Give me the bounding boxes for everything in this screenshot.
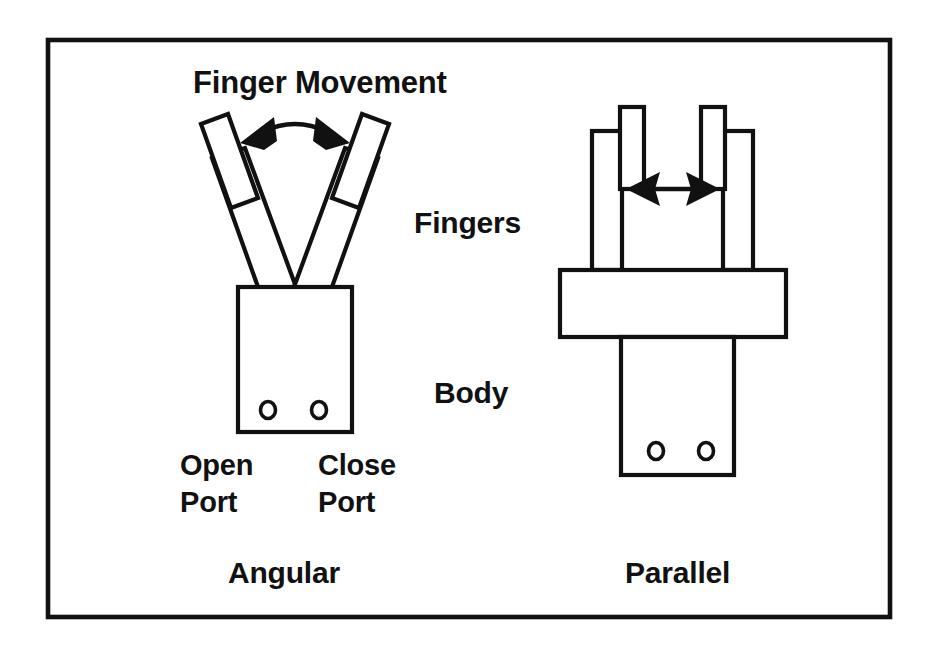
curved-arrow-head-left: [240, 117, 277, 150]
diagram-canvas: Finger Movement Fingers Body Open Port C…: [0, 0, 930, 646]
angular-close-port-hole: [312, 402, 327, 419]
parallel-left-finger-arm: [592, 131, 622, 270]
angular-gripper-illustration: [201, 114, 389, 432]
angular-caption: Angular: [228, 556, 340, 589]
curved-double-arrow-icon: [240, 117, 350, 150]
curved-arrow-head-right: [313, 117, 350, 150]
body-label: Body: [434, 376, 509, 409]
gripper-diagram-figure: Finger Movement Fingers Body Open Port C…: [0, 0, 930, 646]
parallel-caption: Parallel: [625, 556, 730, 589]
open-port-label-line1: Open: [180, 449, 253, 481]
close-port-label-line2: Port: [318, 486, 376, 518]
angular-open-port-hole: [261, 402, 276, 419]
parallel-lower-block: [621, 337, 734, 475]
angular-body-block: [238, 287, 352, 432]
parallel-open-port-hole: [649, 443, 664, 460]
parallel-left-finger-tip: [620, 107, 644, 189]
parallel-right-finger-arm: [723, 131, 753, 270]
finger-movement-title: Finger Movement: [193, 65, 447, 100]
parallel-right-finger-tip: [701, 107, 725, 189]
parallel-gripper-illustration: [560, 107, 786, 475]
parallel-body-block: [560, 270, 786, 337]
close-port-label-line1: Close: [318, 449, 396, 481]
parallel-close-port-hole: [699, 443, 714, 460]
open-port-label-line2: Port: [180, 486, 238, 518]
fingers-label: Fingers: [414, 206, 521, 239]
